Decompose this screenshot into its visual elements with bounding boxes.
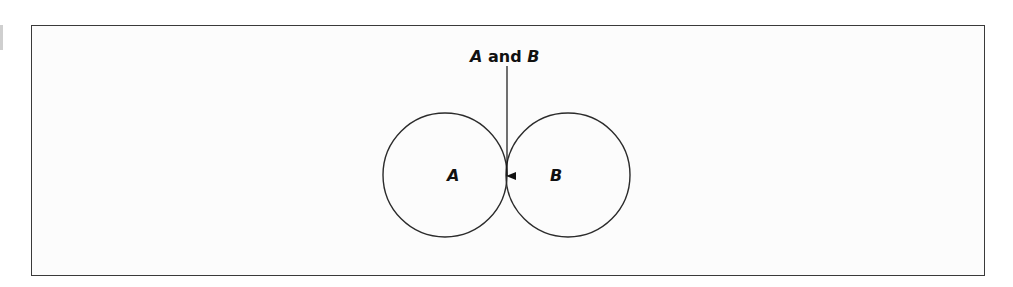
set-b-circle (506, 113, 630, 237)
set-b-label: B (550, 166, 562, 185)
intersection-label: A and B (470, 47, 539, 66)
set-a-label: A (447, 166, 459, 185)
venn-diagram (0, 0, 1013, 287)
set-a-circle (383, 113, 507, 237)
